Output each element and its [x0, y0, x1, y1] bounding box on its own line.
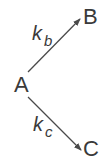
rate-symbol-kb: k: [32, 22, 43, 44]
node-c-label: C: [83, 136, 99, 161]
rate-subscript-c: c: [45, 123, 53, 140]
reaction-diagram: A B C k b k c: [0, 0, 108, 166]
rate-symbol-kc: k: [33, 113, 44, 135]
node-a-label: A: [14, 72, 29, 97]
rate-subscript-b: b: [44, 32, 52, 49]
rate-constant-kc: k: [33, 113, 44, 135]
node-b-label: B: [83, 4, 98, 29]
rate-constant-kb: k: [32, 22, 43, 44]
